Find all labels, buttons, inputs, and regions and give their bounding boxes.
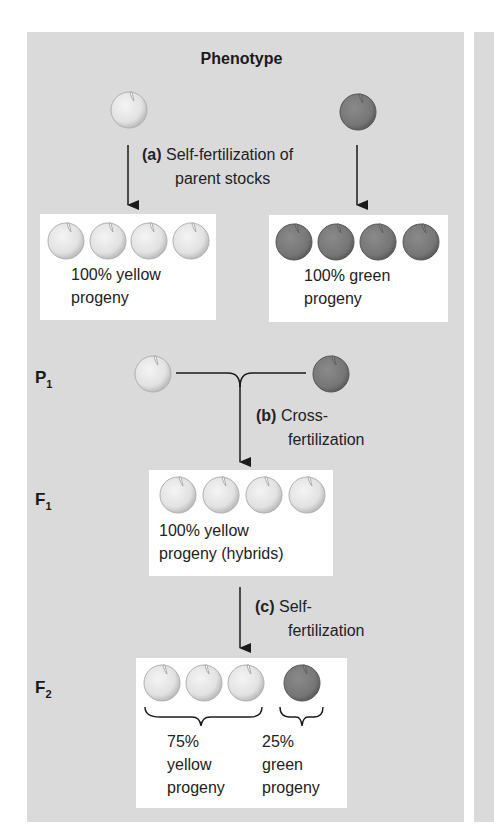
green-pea-icon [360,224,396,260]
green-parent-pea-icon [340,94,376,130]
f2-green-line2: progeny [262,777,320,798]
f1-yellow-pea-icon [160,477,196,513]
yellow-pea-icon [173,223,209,259]
green-pea-icon [276,224,312,260]
brace-yellow-icon [145,707,262,726]
f1-yellow-pea-icon [246,477,282,513]
f2-yellow-line1: yellow [167,754,211,775]
green-pea-icon [318,224,354,260]
generation-label-p1: P1 [35,368,52,390]
step-b-label: (b) Cross- [256,405,328,426]
f1-progeny-line2: progeny (hybrids) [159,543,284,564]
yellow-parent-progeny-line1: 100% yellow [71,264,161,285]
step-c-label-line2: fertilization [288,620,364,641]
step-c-label: (c) Self- [255,596,312,617]
yellow-parent-progeny-line2: progeny [71,287,129,308]
step-a-label-line2: parent stocks [175,168,270,189]
yellow-pea-icon [90,223,126,259]
f2-green-pea-icon [284,665,320,701]
f2-yellow-pea-icon [228,665,264,701]
step-a-label: (a) Self-fertilization of [142,144,293,165]
f1-yellow-pea-icon [203,477,239,513]
green-parent-progeny-line1: 100% green [304,265,390,286]
yellow-parent-pea-icon [111,92,147,128]
step-b-label-line2: fertilization [288,429,364,450]
f2-yellow-percent: 75% [167,731,199,752]
green-pea-icon [403,224,439,260]
f2-green-percent: 25% [262,731,294,752]
f1-progeny-line1: 100% yellow [159,520,249,541]
yellow-pea-icon [131,223,167,259]
cross-line-left [176,373,240,387]
f1-yellow-pea-icon [289,477,325,513]
f2-yellow-pea-icon [186,665,222,701]
brace-green-icon [280,707,323,726]
yellow-pea-icon [48,223,84,259]
p1-yellow-pea-icon [135,356,171,392]
generation-label-f1: F1 [35,490,52,512]
f2-green-line1: green [262,754,303,775]
f2-yellow-pea-icon [144,665,180,701]
green-parent-progeny-line2: progeny [304,288,362,309]
cross-line-right [240,373,306,387]
f2-yellow-line2: progeny [167,777,225,798]
generation-label-f2: F2 [35,678,52,700]
p1-green-pea-icon [313,356,349,392]
